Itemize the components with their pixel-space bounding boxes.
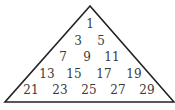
number-cell: 27 [110, 83, 125, 97]
number-cell: 7 [59, 50, 67, 64]
number-cell: 1 [86, 17, 94, 31]
number-cell: 21 [23, 83, 38, 97]
number-cell: 13 [39, 67, 54, 81]
number-cell: 25 [81, 83, 96, 97]
number-cell: 23 [52, 83, 67, 97]
number-cell: 19 [126, 67, 141, 81]
number-cell: 3 [74, 34, 82, 48]
number-cell: 17 [96, 67, 111, 81]
number-cell: 9 [83, 50, 91, 64]
number-cell: 5 [97, 34, 105, 48]
odd-number-triangle: 1 3 5 7 9 11 13 15 17 19 21 23 25 27 29 [0, 0, 175, 110]
number-cell: 11 [104, 50, 119, 64]
number-cell: 15 [66, 67, 81, 81]
number-cell: 29 [139, 83, 154, 97]
